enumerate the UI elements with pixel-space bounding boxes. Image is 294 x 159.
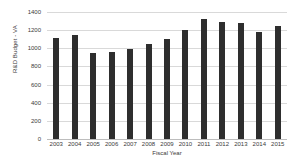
x-axis-title: Fiscal Year — [47, 150, 287, 156]
x-axis-tick-label: 2009 — [160, 141, 173, 147]
y-axis-tick-label: 600 — [31, 82, 41, 88]
bar[interactable] — [238, 23, 244, 139]
bar[interactable] — [90, 53, 96, 139]
x-axis-tick-label: 2004 — [68, 141, 81, 147]
bar[interactable] — [164, 39, 170, 139]
bar-slot — [121, 12, 139, 139]
gridline — [47, 139, 287, 140]
bar-slot — [84, 12, 102, 139]
bar[interactable] — [182, 30, 188, 139]
bar[interactable] — [53, 38, 59, 139]
y-axis-tick-label: 0 — [38, 136, 41, 142]
x-axis-tick-label: 2010 — [179, 141, 192, 147]
x-axis-tick-label: 2013 — [234, 141, 247, 147]
bar-slot — [158, 12, 176, 139]
bar-slot — [269, 12, 287, 139]
bar-slot — [65, 12, 83, 139]
bar-slot — [195, 12, 213, 139]
y-axis-tick-labels: 0200400600800100012001400 — [0, 12, 44, 139]
y-axis-tick-label: 1200 — [28, 27, 41, 33]
x-axis-tick-label: 2003 — [50, 141, 63, 147]
bar-slot — [213, 12, 231, 139]
bar-chart: R&D Budget - VA 020040060080010001200140… — [0, 0, 294, 159]
bar-slot — [232, 12, 250, 139]
bar[interactable] — [146, 44, 152, 139]
x-axis-tick-label: 2011 — [197, 141, 210, 147]
bar[interactable] — [275, 26, 281, 139]
bar[interactable] — [256, 32, 262, 139]
x-axis-tick-label: 2007 — [123, 141, 136, 147]
y-axis-tick-label: 1000 — [28, 45, 41, 51]
bar-slot — [250, 12, 268, 139]
x-axis-tick-label: 2015 — [271, 141, 284, 147]
bar-slot — [47, 12, 65, 139]
y-axis-tick-label: 200 — [31, 118, 41, 124]
bar-slot — [139, 12, 157, 139]
y-axis-tick-label: 400 — [31, 100, 41, 106]
y-axis-tick-label: 800 — [31, 63, 41, 69]
plot-area — [47, 12, 287, 139]
bar[interactable] — [127, 49, 133, 139]
bar-series — [47, 12, 287, 139]
x-axis-tick-label: 2012 — [216, 141, 229, 147]
bar[interactable] — [72, 35, 78, 139]
bar-slot — [176, 12, 194, 139]
x-axis-tick-label: 2008 — [142, 141, 155, 147]
bar[interactable] — [201, 19, 207, 139]
x-axis-tick-label: 2006 — [105, 141, 118, 147]
bar[interactable] — [219, 22, 225, 139]
bar-slot — [102, 12, 120, 139]
x-axis-tick-label: 2005 — [86, 141, 99, 147]
x-axis-tick-label: 2014 — [253, 141, 266, 147]
bar[interactable] — [109, 52, 115, 139]
y-axis-tick-label: 1400 — [28, 9, 41, 15]
